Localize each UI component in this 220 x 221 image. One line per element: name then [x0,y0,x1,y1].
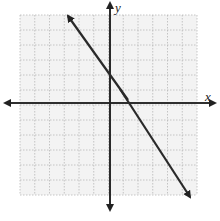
x-axis-label: x [205,89,211,105]
y-axis-label: y [115,0,121,16]
coordinate-plane [0,0,220,221]
